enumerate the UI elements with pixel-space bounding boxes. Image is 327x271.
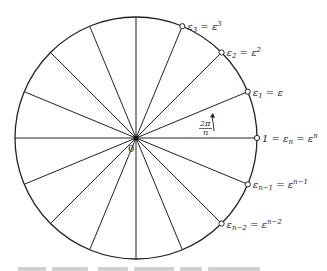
root-marker-eps3 (180, 24, 185, 29)
radial-line (50, 52, 136, 138)
angle-arc (212, 117, 214, 131)
radial-line (50, 138, 136, 224)
figure-caption-clipped (18, 265, 278, 271)
root-marker-epsn1 (245, 182, 250, 187)
root-marker-eps1 (245, 89, 250, 94)
root-label-eps3: ε3 = ε3 (187, 20, 222, 34)
roots-of-unity-diagram: 0 2π n ε3 = ε3ε2 = ε2ε1 = ε1 = εn = εnεn… (0, 0, 327, 271)
root-label-epsn2: εn−2 = εn−2 (227, 218, 283, 232)
angle-arrow-icon (210, 113, 215, 118)
radial-line (136, 138, 222, 224)
origin-label: 0 (128, 143, 134, 154)
root-marker-one (254, 135, 259, 140)
origin-dot (133, 135, 138, 140)
angle-denominator: n (203, 128, 208, 137)
root-marker-epsn2 (219, 221, 224, 226)
root-label-eps2: ε2 = ε2 (227, 46, 262, 60)
root-marker-eps2 (219, 50, 224, 55)
root-label-one: 1 = εn = εn (262, 132, 318, 146)
angle-numerator: 2π (199, 119, 211, 128)
root-label-eps1: ε1 = ε (253, 87, 283, 100)
root-label-epsn1: εn−1 = εn−1 (253, 178, 308, 192)
